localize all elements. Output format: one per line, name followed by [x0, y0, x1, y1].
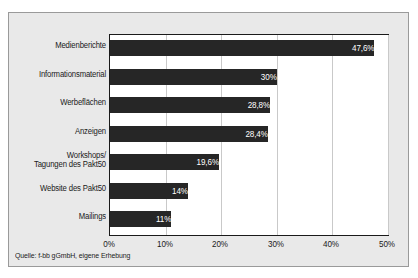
x-tick-label: 40% — [312, 238, 350, 250]
plot-area: 47,6%30%28,8%28,4%19,6%14%11% — [109, 34, 389, 236]
category-label: Werbeflächen — [20, 98, 106, 107]
bar-value-label: 47,6% — [126, 40, 377, 56]
bar-row: 28,4% — [110, 126, 388, 142]
chart-figure: MedienberichteInformationsmaterialWerbef… — [8, 12, 409, 267]
bar-row: 47,6% — [110, 40, 388, 56]
bar-row: 11% — [110, 211, 388, 227]
bar-chart: MedienberichteInformationsmaterialWerbef… — [9, 13, 410, 268]
source-note: Quelle: f-bb gGmbH, eigene Erhebung — [15, 251, 130, 261]
x-tick-label: 30% — [257, 238, 295, 250]
bar-value-label: 14% — [115, 183, 191, 199]
bar-row: 19,6% — [110, 154, 388, 170]
bar-row: 14% — [110, 183, 388, 199]
value-axis: 0%10%20%30%40%50% — [109, 238, 389, 251]
x-tick-label: 0% — [90, 238, 128, 250]
bar-row: 30% — [110, 69, 388, 85]
bar-value-label: 11% — [114, 211, 174, 227]
bar-value-label: 30% — [120, 69, 279, 85]
bar-row: 28,8% — [110, 97, 388, 113]
category-axis: MedienberichteInformationsmaterialWerbef… — [13, 33, 106, 238]
category-label: Anzeigen — [20, 127, 106, 136]
x-tick-label: 10% — [146, 238, 184, 250]
bar-value-label: 28,8% — [120, 97, 273, 113]
category-label: Medienberichte — [20, 41, 106, 50]
bar-value-label: 28,4% — [120, 126, 271, 142]
category-label: Mailings — [20, 212, 106, 221]
gridline — [388, 35, 389, 235]
category-label: Workshops/ Tagungen des Pakt50 — [20, 151, 106, 170]
bar-value-label: 19,6% — [117, 154, 222, 170]
x-tick-label: 20% — [201, 238, 239, 250]
x-tick-label: 50% — [368, 238, 406, 250]
plot-inner: 47,6%30%28,8%28,4%19,6%14%11% — [110, 35, 388, 235]
category-label: Website des Pakt50 — [20, 184, 106, 193]
category-label: Informationsmaterial — [20, 70, 106, 79]
